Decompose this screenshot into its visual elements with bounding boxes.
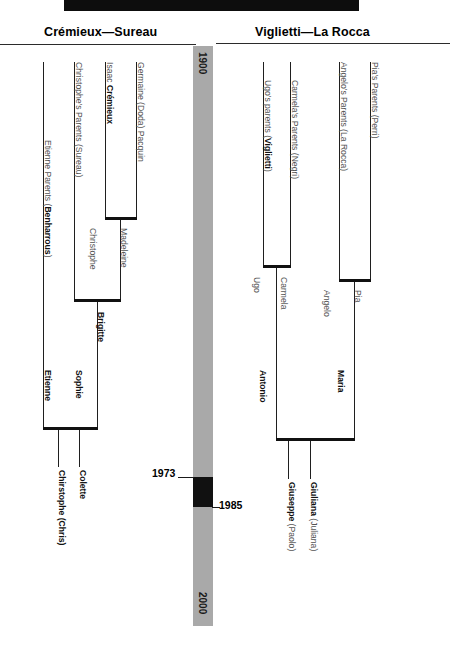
left-label-germaine-pacquin: Germaine (Doda) Pacquin xyxy=(136,62,145,162)
right-label-pia-parents: Pia's Parents (Perri) xyxy=(370,62,379,139)
right-label-giuseppe: Giuseppe (Paolo) xyxy=(287,482,296,551)
left-label-isaac-cremieux: Isaac Crémieux xyxy=(105,62,114,124)
header-divider-left xyxy=(0,44,196,45)
right-label-carmela: Carmela xyxy=(279,277,288,309)
left-label-chirstophe-chris: Chirstophe (Chris) xyxy=(57,470,66,545)
left-union-bar-cremieux xyxy=(105,217,137,220)
right-label-ugo-parents: Ugo's parents (Viglietti) xyxy=(263,80,272,172)
left-label-etienne-parents: Etienne Parents (Benharrous) xyxy=(43,140,52,258)
right-label-antonio: Antonio xyxy=(258,370,267,402)
left-label-christophe: Christophe xyxy=(88,228,97,270)
timeline-start-year: 1900 xyxy=(197,52,208,74)
highlight-end-year-label: 1985 xyxy=(219,499,242,511)
right-union-bar-la-rocca-perri xyxy=(339,279,371,282)
left-label-colette: Colette xyxy=(78,470,87,499)
right-label-ugo-parents-surname: Viglietti xyxy=(263,138,273,169)
right-antonio-descent xyxy=(276,268,277,440)
left-label-etienne-parents-surname: Benharrous xyxy=(43,206,53,254)
highlight-start-year-label: 1973 xyxy=(152,467,175,479)
timeline-end-year: 2000 xyxy=(197,592,208,614)
highlight-start-leader-line xyxy=(178,477,194,478)
left-child-chris-descent xyxy=(58,430,59,467)
left-label-madeleine: Madeleine xyxy=(119,228,128,268)
left-label-brigitte: Brigitte xyxy=(96,312,105,342)
header-right-family: Viglietti—La Rocca xyxy=(255,25,370,39)
left-child-colette-descent xyxy=(79,430,80,467)
left-label-isaac-surname: Crémieux xyxy=(105,85,115,124)
right-union-bar-viglietti-negri xyxy=(263,265,291,268)
left-label-christophe-parents: Christophe's Parents (Sureau) xyxy=(74,62,83,177)
timeline-highlight-1973-1985 xyxy=(193,477,213,507)
right-label-giuliana: Giuliana (Juliana) xyxy=(309,482,318,551)
right-label-ugo: Ugo xyxy=(252,277,261,293)
right-label-angelo-parents: Angelo's Parents (La Rocca) xyxy=(339,62,348,171)
right-label-giuliana-first: Giuliana xyxy=(309,482,319,516)
header-divider-right xyxy=(216,43,450,44)
right-maria-descent xyxy=(354,282,355,440)
header-left-family: Crémieux—Sureau xyxy=(44,25,157,39)
left-label-etienne: Etienne xyxy=(43,370,52,401)
right-label-carmela-parents: Carmela's Parents (Negri) xyxy=(290,80,299,179)
right-child-giuliana-descent xyxy=(310,441,311,479)
left-label-sophie: Sophie xyxy=(74,370,83,399)
right-label-giuseppe-first: Giuseppe xyxy=(287,482,297,521)
right-label-maria: Maria xyxy=(336,370,345,392)
right-label-pia: Pia xyxy=(353,290,362,302)
right-child-giuseppe-descent xyxy=(288,441,289,479)
family-tree-diagram: Crémieux—Sureau Viglietti—La Rocca 1900 … xyxy=(0,0,450,656)
highlight-end-leader-line xyxy=(212,507,220,508)
century-timeline-bar xyxy=(193,46,213,626)
top-black-band xyxy=(64,0,359,11)
right-label-angelo: Angelo xyxy=(322,290,331,317)
left-union-bar-etienne-sophie xyxy=(43,427,98,430)
